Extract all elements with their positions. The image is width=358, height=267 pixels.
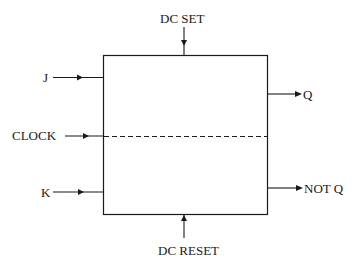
j-label: J bbox=[43, 71, 48, 84]
k-label: K bbox=[41, 186, 50, 199]
q-label: Q bbox=[303, 88, 312, 101]
not-q-label: NOT Q bbox=[304, 182, 343, 195]
dc-set-label: DC SET bbox=[160, 12, 204, 25]
clock-label: CLOCK bbox=[12, 129, 56, 142]
flip-flop-box bbox=[104, 56, 268, 215]
dc-reset-label: DC RESET bbox=[158, 244, 219, 257]
